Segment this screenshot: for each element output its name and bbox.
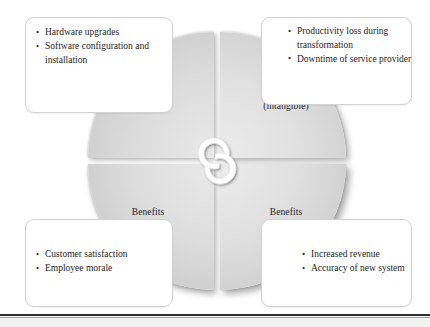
callout-costs-tangible[interactable]: Hardware upgrades Software configuration… — [25, 17, 173, 113]
list-item: Increased revenue — [302, 248, 414, 262]
list-item: Employee morale — [36, 262, 168, 276]
diagram-canvas: Costs (tangible) Costs (intangible) Bene… — [0, 0, 430, 327]
callout-bullet-list: Hardware upgrades Software configuration… — [36, 26, 166, 68]
list-item: Accuracy of new system — [302, 262, 414, 276]
footer-bar — [0, 318, 430, 327]
callout-benefits-intangible[interactable]: Customer satisfaction Employee morale — [25, 219, 173, 307]
quadrant-title: Benefits — [85, 206, 211, 219]
callout-bullet-list: Customer satisfaction Employee morale — [36, 248, 168, 276]
list-item: Productivity loss during transformation — [288, 25, 412, 52]
callout-costs-intangible[interactable]: Productivity loss during transformation … — [261, 17, 412, 105]
footer-rule — [0, 314, 430, 316]
list-item: Downtime of service provider — [288, 53, 412, 67]
footer-rule-thin — [0, 317, 430, 318]
callout-bullet-list: Increased revenue Accuracy of new system — [302, 248, 414, 276]
list-item: Hardware upgrades — [36, 26, 166, 40]
list-item: Software configuration and installation — [36, 40, 166, 67]
callout-benefits-tangible[interactable]: Increased revenue Accuracy of new system — [261, 219, 412, 307]
list-item: Customer satisfaction — [36, 248, 168, 262]
quadrant-title: Benefits — [223, 206, 349, 219]
callout-bullet-list: Productivity loss during transformation … — [288, 25, 412, 67]
